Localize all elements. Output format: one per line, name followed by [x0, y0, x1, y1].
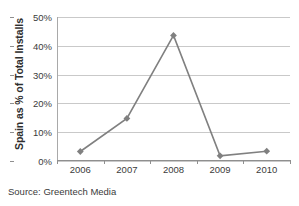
gridline — [57, 161, 290, 162]
y-axis-tick-mark — [10, 132, 14, 133]
x-axis-tick-labels: 20062007200820092010 — [57, 164, 290, 180]
series-path — [80, 35, 266, 155]
series-line-spain — [57, 17, 290, 161]
x-axis-tick-label: 2008 — [151, 164, 197, 175]
x-axis-tick-label: 2010 — [244, 164, 290, 175]
y-axis-tick-mark — [10, 17, 14, 18]
y-axis-tick-label: 0% — [18, 156, 52, 167]
y-axis-tick-label: 50% — [18, 12, 52, 23]
y-axis-tick-label: 20% — [18, 98, 52, 109]
data-point-marker — [170, 32, 177, 39]
x-axis-tick-label: 2007 — [104, 164, 150, 175]
y-axis-tick-labels: 0%10%20%30%40%50% — [14, 17, 52, 161]
x-axis-tick-label: 2009 — [197, 164, 243, 175]
source-note: Source: Greentech Media — [8, 186, 116, 197]
x-axis-tick-label: 2006 — [57, 164, 103, 175]
data-point-marker — [263, 148, 270, 155]
plot-area — [57, 17, 290, 161]
y-axis-tick-label: 40% — [18, 40, 52, 51]
data-point-marker — [217, 152, 224, 159]
y-axis-tick-mark — [10, 103, 14, 104]
y-axis-tick-label: 10% — [18, 127, 52, 138]
y-axis-tick-label: 30% — [18, 69, 52, 80]
chart-figure: Spain as % of Total Installs 0%10%20%30%… — [0, 0, 299, 206]
y-axis-tick-mark — [10, 75, 14, 76]
y-axis-tick-mark — [10, 46, 14, 47]
y-axis-tick-mark — [10, 161, 14, 162]
x-axis-tick-mark — [290, 160, 291, 164]
